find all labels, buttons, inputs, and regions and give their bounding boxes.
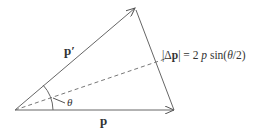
diagram-graphics [0, 0, 270, 131]
bisector-dashed-line [15, 59, 165, 110]
momentum-diagram: p′ p θ |Δp| = 2 p sin(θ/2) [0, 0, 270, 131]
formula-sin-open: sin( [207, 49, 227, 61]
label-p: p [100, 114, 107, 127]
formula-equals-2: = 2 [180, 49, 201, 61]
theta-pointer-line [53, 98, 65, 103]
label-p-prime: p′ [64, 44, 75, 57]
delta-p-formula: |Δp| = 2 p sin(θ/2) [162, 50, 246, 62]
vector-p-prime-arrow [15, 8, 135, 110]
formula-over-2: /2) [233, 49, 246, 61]
label-theta: θ [67, 97, 72, 108]
formula-delta: Δ [164, 49, 171, 61]
